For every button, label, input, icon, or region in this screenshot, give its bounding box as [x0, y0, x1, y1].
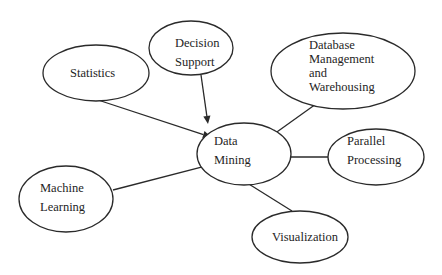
node-database-management: DatabaseManagementandWarehousing	[271, 33, 415, 109]
arrowhead-icon	[203, 116, 210, 124]
edge-line	[113, 166, 205, 190]
node-machine-learning: MachineLearning	[19, 166, 113, 232]
node-label: Learning	[40, 200, 86, 214]
node-label: and	[309, 66, 328, 80]
node-label: Data	[214, 134, 238, 148]
node-label: Parallel	[347, 134, 386, 148]
edge-line	[201, 75, 207, 116]
edge-line	[277, 104, 316, 132]
node-statistics: Statistics	[43, 45, 149, 101]
node-label: Mining	[214, 153, 252, 167]
node-parallel-processing: ParallelProcessing	[328, 129, 424, 185]
node-label: Decision	[175, 36, 220, 50]
node-label: Database	[309, 38, 355, 52]
node-data-mining: DataMining	[197, 123, 291, 185]
node-label: Visualization	[272, 230, 339, 244]
node-label: Statistics	[70, 66, 115, 80]
edge-machine-learning-to-data-mining	[113, 163, 213, 190]
edge-line	[98, 100, 203, 135]
node-label: Processing	[347, 153, 402, 167]
edge-statistics-to-data-mining	[98, 100, 211, 138]
nodes-layer: StatisticsDecisionSupportDatabaseManagem…	[19, 21, 424, 263]
node-ellipse	[19, 166, 113, 232]
node-label: Warehousing	[309, 80, 375, 94]
edge-decision-support-to-data-mining	[201, 75, 210, 124]
node-label: Support	[175, 55, 215, 69]
node-label: Machine	[40, 181, 84, 195]
data-mining-concept-diagram: StatisticsDecisionSupportDatabaseManagem…	[0, 0, 442, 275]
node-decision-support: DecisionSupport	[149, 21, 233, 75]
node-label: Management	[309, 52, 375, 66]
node-visualization: Visualization	[252, 211, 348, 263]
